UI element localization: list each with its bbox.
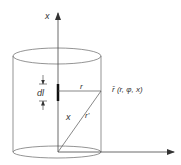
r-label: r — [80, 82, 83, 91]
dl-label: dl — [37, 88, 45, 98]
x-distance-label: x — [65, 112, 71, 122]
cylinder-top-ellipse — [13, 48, 101, 64]
r-prime-label: r' — [85, 111, 90, 120]
r-prime-line — [58, 91, 101, 152]
cylinder-diagram: x dl r x r' r̄ (r, φ, x) — [0, 0, 181, 165]
cylinder — [13, 48, 101, 158]
x-axis-label: x — [44, 11, 50, 21]
field-point-label: r̄ (r, φ, x) — [112, 85, 143, 94]
